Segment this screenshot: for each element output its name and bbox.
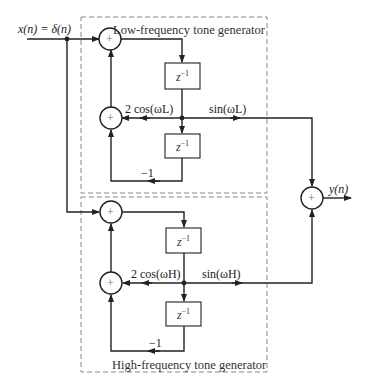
high-generator-title: High-frequency tone generator [112,359,266,372]
delay-high-2: z−1 [166,307,201,323]
low-coef-label: 2 cos(ωL) [125,103,173,115]
high-sin-label: sin(ωH) [202,268,241,280]
adder-plus: + [107,112,114,124]
low-generator-title: Low-frequency tone generator [113,24,265,37]
high-coef-label: 2 cos(ωH) [131,268,181,280]
low-minus-one: −1 [141,167,154,179]
adder-plus: + [106,33,113,45]
delay-high-1: z−1 [166,234,201,250]
delay-low-1: z−1 [165,69,200,85]
high-minus-one: −1 [149,337,162,349]
adder-plus: + [107,277,114,289]
delay-low-2: z−1 [165,139,200,155]
adder-plus: + [107,206,114,218]
output-label: y(n) [329,183,348,195]
adder-plus: + [308,192,315,204]
low-sin-label: sin(ωL) [209,103,246,115]
input-label: x(n) = δ(n) [18,23,71,35]
